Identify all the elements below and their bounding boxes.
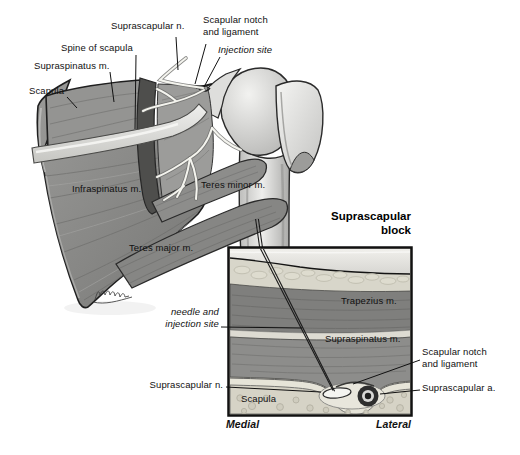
- label-scapular-notch-line1: Scapular notch: [203, 14, 268, 26]
- label-inset-supraspinatus-m: Supraspinatus m.: [325, 333, 401, 345]
- label-injection-site: Injection site: [218, 44, 272, 56]
- label-supraspinatus-m: Supraspinatus m.: [34, 60, 110, 72]
- label-inset-scapular-notch-line1: Scapular notch: [422, 346, 487, 358]
- label-lateral: Lateral: [376, 418, 411, 430]
- leader-scapular-notch: [195, 44, 206, 84]
- label-scapular-notch-line2: and ligament: [203, 26, 268, 38]
- label-medial: Medial: [226, 418, 259, 430]
- inset-trapezius-layer: [230, 284, 412, 333]
- inset-title: Suprascapular block: [331, 210, 411, 237]
- inset-title-line1: Suprascapular: [331, 210, 411, 224]
- label-suprascapular-n: Suprascapular n.: [111, 20, 184, 32]
- label-needle-line1: needle and: [165, 306, 219, 318]
- label-inset-suprascapular-a: Suprascapular a.: [422, 382, 495, 394]
- label-inset-trapezius-m: Trapezius m.: [341, 295, 397, 307]
- ground-shadow: [64, 301, 156, 315]
- label-teres-major-m: Teres major m.: [129, 242, 193, 254]
- inset-title-line2: block: [331, 224, 411, 238]
- label-spine-of-scapula: Spine of scapula: [61, 42, 133, 54]
- label-teres-minor-m: Teres minor m.: [201, 179, 265, 191]
- label-scapula: Scapula: [29, 85, 64, 97]
- label-infraspinatus-m: Infraspinatus m.: [72, 183, 141, 195]
- label-scapular-notch-ligament: Scapular notch and ligament: [203, 14, 268, 38]
- label-inset-scapular-notch-line2: and ligament: [422, 358, 487, 370]
- anatomy-figure: Suprascapular n. Scapular notch and liga…: [0, 0, 520, 455]
- label-needle-line2: injection site: [165, 318, 219, 330]
- label-inset-scapula: Scapula: [241, 393, 276, 405]
- inset-cross-section: [229, 219, 413, 416]
- label-needle-injection-site: needle and injection site: [165, 306, 219, 330]
- label-inset-scapular-notch: Scapular notch and ligament: [422, 346, 487, 370]
- label-inset-suprascapular-n: Suprascapular n.: [150, 379, 223, 391]
